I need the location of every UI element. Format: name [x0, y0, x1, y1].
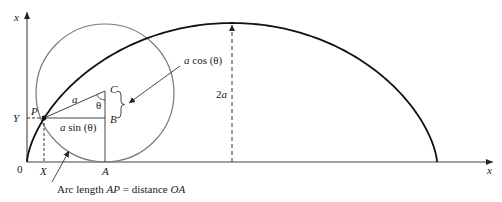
vertical-axis-label: x — [13, 11, 19, 23]
theta-label: θ — [96, 99, 101, 111]
arc-length-caption: Arc length AP = distance OA — [57, 183, 185, 195]
cycloid-diagram: x x 0 P Y X A C B a θ a sin (θ) a cos (θ… — [0, 0, 502, 202]
label-a-point: A — [101, 165, 109, 177]
horizontal-axis-label: x — [486, 164, 492, 176]
cb-brace — [117, 91, 125, 118]
label-b: B — [110, 113, 117, 125]
label-p: P — [30, 105, 38, 117]
label-x: X — [39, 165, 48, 177]
height-2a-label: 2a — [216, 88, 228, 100]
radius-label: a — [72, 93, 78, 105]
label-c: C — [110, 83, 118, 95]
a-sin-theta-label: a sin (θ) — [60, 121, 97, 134]
label-y: Y — [13, 112, 21, 124]
cycloid-curve — [27, 23, 437, 162]
a-cos-theta-label: a cos (θ) — [184, 54, 223, 67]
point-p — [42, 116, 47, 121]
arc-length-arrow — [52, 151, 69, 182]
origin-label: 0 — [17, 163, 23, 175]
a-cos-arrow — [129, 66, 180, 103]
